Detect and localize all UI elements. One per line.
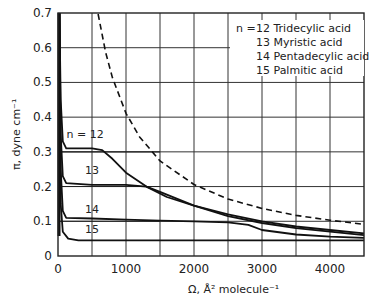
x-tick-label: 2000 xyxy=(179,262,210,276)
x-tick-label: 0 xyxy=(54,262,62,276)
x-axis-label: Ω, Å² molecule⁻¹ xyxy=(188,283,279,296)
legend-entry: 12 Tridecylic acid xyxy=(256,22,351,35)
legend-prefix: n = xyxy=(236,22,256,35)
legend-entry: 14 Pentadecylic acid xyxy=(256,50,369,63)
x-tick-label: 1000 xyxy=(111,262,142,276)
x-axis-ticks: 01000200030004000 xyxy=(54,262,345,276)
y-tick-label: 0.4 xyxy=(33,110,52,124)
curve-label: 14 xyxy=(85,203,99,216)
y-tick-label: 0.5 xyxy=(33,75,52,89)
legend-entry: 13 Myristic acid xyxy=(256,36,343,49)
y-tick-label: 0.6 xyxy=(33,41,52,55)
curve-label: n = 12 xyxy=(67,128,104,141)
x-tick-label: 4000 xyxy=(315,262,346,276)
curve-label: 15 xyxy=(85,223,99,236)
chart: 00.10.20.30.40.50.60.7 01000200030004000… xyxy=(0,0,378,302)
legend-entry: 15 Palmitic acid xyxy=(256,64,343,77)
y-tick-label: 0 xyxy=(44,249,52,263)
y-axis-ticks: 00.10.20.30.40.50.60.7 xyxy=(33,6,52,263)
curve-label: 13 xyxy=(85,164,99,177)
y-tick-label: 0.3 xyxy=(33,145,52,159)
x-tick-label: 3000 xyxy=(247,262,278,276)
annotations: n = 12131415 xyxy=(67,128,104,236)
y-tick-label: 0.7 xyxy=(33,6,52,20)
y-tick-label: 0.2 xyxy=(33,180,52,194)
y-axis-label: π, dyne cm⁻¹ xyxy=(10,99,23,170)
y-tick-label: 0.1 xyxy=(33,214,52,228)
